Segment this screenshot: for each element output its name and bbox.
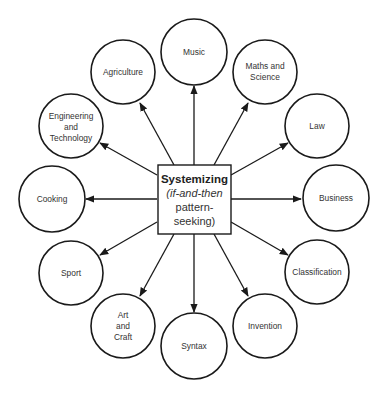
node-label: and bbox=[116, 321, 130, 331]
node-cooking: Cooking bbox=[19, 166, 85, 232]
node-label: Engineering bbox=[49, 111, 94, 121]
node-music: Music bbox=[161, 19, 227, 85]
center-subtitle-2: pattern- bbox=[176, 201, 214, 213]
arrow-sport bbox=[100, 222, 157, 255]
arrow-engineering bbox=[100, 143, 157, 175]
center-subtitle-3: seeking) bbox=[174, 215, 216, 227]
arrow-classification bbox=[231, 222, 288, 255]
node-business: Business bbox=[303, 165, 369, 231]
node-label: Science bbox=[250, 72, 280, 82]
node-agriculture: Agriculture bbox=[91, 40, 155, 104]
node-label: Technology bbox=[50, 133, 93, 143]
node-label: Classification bbox=[292, 267, 342, 277]
node-classification: Classification bbox=[285, 240, 349, 304]
arrow-maths bbox=[214, 103, 248, 165]
node-sport: Sport bbox=[39, 241, 103, 305]
node-label: Syntax bbox=[181, 341, 207, 351]
node-law: Law bbox=[285, 94, 349, 158]
node-label: Law bbox=[309, 121, 325, 131]
node-label: Sport bbox=[61, 268, 82, 278]
node-label: Music bbox=[183, 47, 205, 57]
node-label: Business bbox=[319, 193, 353, 203]
node-label: and bbox=[64, 122, 78, 132]
node-label: Art bbox=[118, 310, 129, 320]
node-label: Invention bbox=[248, 321, 282, 331]
systemizing-diagram: Systemizing (if-and-then pattern- seekin… bbox=[0, 0, 387, 401]
node-engineering-technology: Engineering and Technology bbox=[39, 94, 103, 158]
node-invention: Invention bbox=[233, 294, 297, 358]
center-node: Systemizing (if-and-then pattern- seekin… bbox=[158, 165, 231, 234]
node-syntax: Syntax bbox=[161, 313, 227, 379]
arrow-art bbox=[140, 234, 174, 296]
center-subtitle-1: (if-and-then bbox=[166, 187, 222, 199]
node-art-craft: Art and Craft bbox=[91, 294, 155, 358]
node-label: Agriculture bbox=[103, 67, 143, 77]
arrow-agriculture bbox=[140, 103, 174, 165]
arrow-law bbox=[231, 143, 288, 175]
node-label: Cooking bbox=[37, 194, 68, 204]
node-maths-science: Maths and Science bbox=[233, 40, 297, 104]
arrow-invention bbox=[214, 234, 248, 296]
node-label: Craft bbox=[114, 332, 133, 342]
center-title: Systemizing bbox=[161, 173, 228, 185]
node-label: Maths and bbox=[245, 61, 284, 71]
